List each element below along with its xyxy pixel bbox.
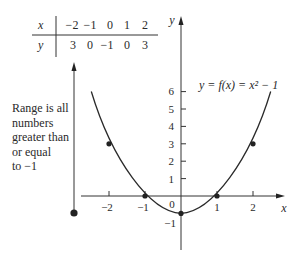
y-axis-label: y (168, 13, 175, 27)
y-tick-label: 6 (169, 85, 175, 97)
range-annotation: Range is all numbers greater than or equ… (12, 101, 76, 174)
y-tick-label: 1 (169, 173, 175, 185)
y-neg-tick-label: −1 (164, 217, 176, 229)
x-tick-label: 1 (214, 201, 220, 213)
table-x-cell: 2 (142, 18, 148, 32)
range-annotation-line: to −1 (12, 159, 76, 174)
table-x-cell: 1 (124, 18, 130, 32)
range-start-dot (70, 209, 77, 216)
y-tick-label: 4 (169, 120, 175, 132)
table-y-cell: 3 (142, 38, 148, 52)
range-annotation-line: greater than (12, 130, 76, 145)
equation-label: y = f(x) = x² − 1 (198, 78, 278, 92)
y-tick-label: 5 (169, 103, 175, 115)
x-tick-label: 0 (169, 198, 175, 210)
table-y-cell: −1 (101, 38, 114, 52)
range-annotation-line: Range is all (12, 101, 76, 116)
point-1-0 (214, 193, 219, 198)
table-y-cell: 0 (87, 38, 93, 52)
table-x-cell: −2 (66, 18, 79, 32)
table-x-cell: −1 (84, 18, 97, 32)
point-2-3 (250, 141, 255, 146)
x-axis-arrow-icon (276, 194, 285, 199)
table-x-cell: 0 (107, 18, 113, 32)
point-0-neg1 (178, 211, 183, 216)
y-tick-label: 3 (169, 138, 175, 150)
table-y-header: y (37, 38, 44, 52)
point-neg2-3 (106, 141, 111, 146)
table-x-header: x (37, 18, 44, 32)
x-tick-label: −2 (101, 201, 113, 213)
x-tick-label: 2 (250, 201, 256, 213)
range-annotation-line: numbers (12, 116, 76, 131)
y-axis-arrow-icon (179, 16, 184, 25)
y-tick-label: 2 (169, 155, 175, 167)
table-y-cell: 0 (124, 38, 130, 52)
range-arrow-head-icon (72, 62, 77, 71)
x-axis-label: x (280, 201, 287, 215)
x-tick-label: −1 (137, 201, 149, 213)
table-y-cell: 3 (70, 38, 76, 52)
point-neg1-0 (142, 193, 147, 198)
range-annotation-line: or equal (12, 145, 76, 160)
